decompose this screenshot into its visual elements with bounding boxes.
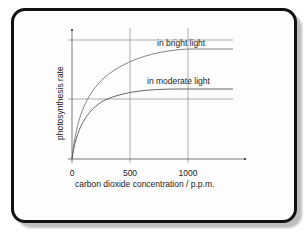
gridlines xyxy=(68,28,233,163)
y-axis-arrow-icon xyxy=(71,29,73,31)
axes xyxy=(68,30,245,163)
x-axis-label: carbon dioxide concentration / p.p.m. xyxy=(75,179,214,189)
x-tick-0: 0 xyxy=(70,168,75,178)
chart-svg: in bright light in moderate light 0 500 … xyxy=(0,0,305,234)
curve-moderate-light xyxy=(72,89,233,159)
y-axis-label: photosynthesis rate xyxy=(55,66,65,140)
x-tick-1000: 1000 xyxy=(179,168,198,178)
x-tick-500: 500 xyxy=(123,168,137,178)
x-axis-arrow-icon xyxy=(244,158,246,160)
label-moderate-light: in moderate light xyxy=(147,76,210,86)
label-bright-light: in bright light xyxy=(157,38,206,48)
curve-bright-light xyxy=(72,49,233,159)
